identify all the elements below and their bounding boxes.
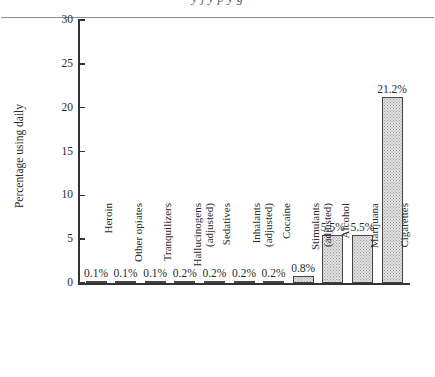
category-label-line-1: Heroin — [102, 203, 114, 289]
y-axis-tick — [79, 195, 85, 197]
y-axis-tick — [79, 282, 85, 284]
y-axis-tick-label: 15 — [41, 146, 73, 158]
y-axis-tick-label-text: 0 — [43, 277, 73, 289]
y-axis-tick-label-text: 10 — [43, 189, 73, 201]
y-axis-tick-label-text: 30 — [43, 14, 73, 26]
x-axis-category-label: Other opiates — [132, 203, 158, 289]
category-label-line-1: Marijuana — [368, 203, 380, 289]
y-axis-tick — [79, 238, 85, 240]
x-axis-category-label: Heroin — [102, 203, 128, 289]
x-axis-category-label: Marijuana — [368, 203, 394, 289]
category-label-line-1: Tranquilizers — [161, 203, 173, 289]
y-axis-tick-label-text: 25 — [43, 58, 73, 70]
bar-chart: Percentage using daily 302520151050 0.1%… — [0, 0, 435, 377]
category-label-line-1: Inhalants — [250, 203, 262, 289]
x-axis-category-label: Cocaine — [280, 203, 306, 289]
category-label-line-1: Cocaine — [280, 203, 292, 289]
x-axis-category-label: Hallucinogens(adjusted) — [191, 203, 217, 289]
y-axis-tick — [79, 63, 85, 65]
category-label-line-1: Cigarettes — [398, 203, 410, 289]
y-axis-tick-label: 25 — [41, 58, 73, 70]
category-label-line-1: Sedatives — [220, 203, 232, 289]
x-axis-category-label: Inhalants(adjusted) — [250, 203, 276, 289]
y-axis-tick-label-text: 20 — [43, 102, 73, 114]
category-label-line-1: Alcohol — [339, 203, 351, 289]
y-axis-title: Percentage using daily — [13, 76, 25, 236]
category-label-line-2: (adjusted) — [262, 203, 274, 289]
category-label-line-1: Hallucinogens — [191, 203, 203, 289]
y-axis-tick-label-text: 5 — [43, 233, 73, 245]
x-axis-category-label: Sedatives — [220, 203, 246, 289]
category-label-line-2: (adjusted) — [322, 203, 334, 289]
y-axis-tick-label-text: 15 — [43, 146, 73, 158]
x-axis-category-label: Cigarettes — [398, 203, 424, 289]
y-axis-tick — [79, 107, 85, 109]
y-axis-tick-label: 10 — [41, 189, 73, 201]
y-axis-tick-label: 0 — [41, 277, 73, 289]
y-axis-tick-label: 30 — [41, 14, 73, 26]
bar-value-label: 21.2% — [369, 83, 415, 95]
x-axis-category-label: Stimulants(adjusted) — [309, 203, 335, 289]
x-axis-category-label: Tranquilizers — [161, 203, 187, 289]
page-canvas: y j y p y g Percentage using daily 30252… — [0, 0, 435, 377]
category-label-line-1: Other opiates — [132, 203, 144, 289]
y-axis-tick-label: 5 — [41, 233, 73, 245]
x-axis-category-label: Alcohol — [339, 203, 365, 289]
category-label-line-2: (adjusted) — [203, 203, 215, 289]
category-label-line-1: Stimulants — [309, 203, 321, 289]
y-axis-tick — [79, 151, 85, 153]
y-axis-tick-label: 20 — [41, 102, 73, 114]
y-axis-tick — [79, 19, 85, 21]
